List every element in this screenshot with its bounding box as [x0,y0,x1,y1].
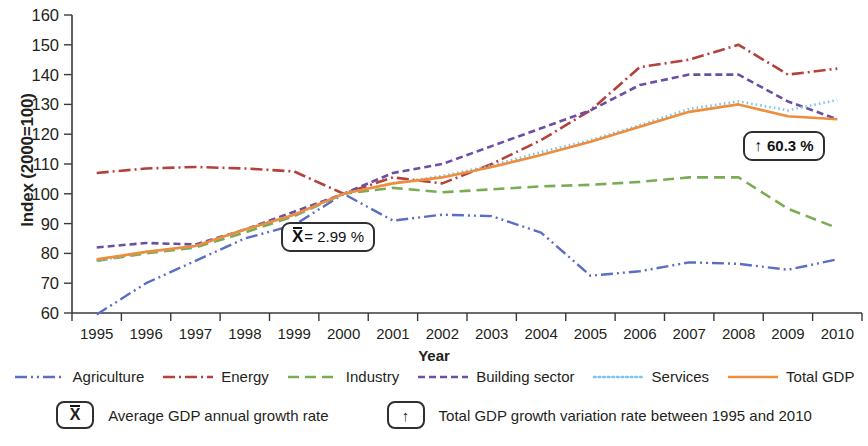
x-tick-label: 1997 [179,325,212,342]
series-line-total-gdp [97,104,838,259]
legend-swatch-building-sector [417,371,469,383]
chart-key: XAverage GDP annual growth rate↑Total GD… [0,401,868,429]
y-tick-label: 60 [41,304,59,322]
x-tick-label: 2001 [376,325,409,342]
y-tick-label: 130 [31,95,59,113]
x-axis: 1995199619971998199920002001200220032004… [72,313,862,342]
series-group [97,45,838,315]
x-tick-label: 2003 [475,325,508,342]
legend-label: Services [652,369,710,384]
x-tick-label: 1998 [228,325,261,342]
x-tick-label: 2006 [623,325,656,342]
series-line-services [97,100,838,261]
legend-swatch-agriculture [14,371,66,383]
legend-label: Total GDP [786,369,854,384]
legend-label: Agriculture [73,369,145,384]
x-axis-title: Year [0,347,868,364]
legend-swatch-services [593,371,645,383]
x-tick-label: 2004 [524,325,557,342]
y-tick-label: 100 [31,185,59,203]
key-item-total-growth: ↑Total GDP growth variation rate between… [387,401,812,429]
x-tick-label: 2009 [771,325,804,342]
legend-label: Building sector [476,369,574,384]
legend-item-services[interactable]: Services [593,369,710,384]
arrow-up-icon: ↑ [402,407,410,424]
x-tick-label: 1995 [80,325,113,342]
x-tick-label: 2005 [574,325,607,342]
series-line-industry [97,177,838,260]
mean-symbol: X [292,227,303,247]
legend-item-building-sector[interactable]: Building sector [417,369,574,384]
legend-swatch-industry [287,371,339,383]
y-tick-label: 70 [41,274,59,292]
mean-icon: X [70,406,81,424]
chart-figure: Index (2000=100) 60708090100110120130140… [0,0,868,446]
y-tick-label: 110 [33,155,59,173]
x-tick-label: 1999 [278,325,311,342]
x-tick-label: 2010 [821,325,854,342]
arrow-up-icon: ↑ [754,137,762,155]
arrow-up-symbol-box: ↑ [387,401,425,429]
annotation-average-growth: X= 2.99 % [281,222,375,252]
key-item-label: Average GDP annual growth rate [108,407,328,424]
x-tick-label: 2007 [673,325,706,342]
legend-label: Energy [221,369,269,384]
y-tick-label: 120 [31,125,59,143]
chart-legend: AgricultureEnergyIndustryBuilding sector… [0,369,868,384]
legend-label: Industry [346,369,399,384]
y-tick-label: 90 [41,215,59,233]
annotation-average-growth-value: = 2.99 % [304,228,364,245]
series-line-agriculture [97,194,838,315]
x-tick-label: 2008 [722,325,755,342]
key-item-average-growth: XAverage GDP annual growth rate [56,401,328,429]
y-tick-label: 150 [31,36,59,54]
x-tick-label: 1996 [129,325,162,342]
legend-item-total-gdp[interactable]: Total GDP [727,369,854,384]
legend-swatch-energy [162,371,214,383]
y-axis: 60708090100110120130140150160 [31,6,72,322]
key-item-label: Total GDP growth variation rate between … [439,407,812,424]
y-tick-label: 140 [31,66,59,84]
legend-swatch-total-gdp [727,371,779,383]
legend-item-agriculture[interactable]: Agriculture [14,369,145,384]
legend-item-industry[interactable]: Industry [287,369,399,384]
annotation-total-growth: ↑60.3 % [743,131,825,161]
mean-symbol-box: X [56,401,94,429]
annotation-total-growth-value: 60.3 % [767,137,814,154]
x-tick-label: 2000 [327,325,360,342]
series-line-building-sector [97,75,838,248]
y-tick-label: 80 [41,244,59,262]
plot-area: 6070809010011012013014015016019951996199… [0,0,868,346]
x-tick-label: 2002 [426,325,459,342]
legend-item-energy[interactable]: Energy [162,369,269,384]
y-tick-label: 160 [31,6,59,24]
mean-symbol-char: X [70,406,81,423]
